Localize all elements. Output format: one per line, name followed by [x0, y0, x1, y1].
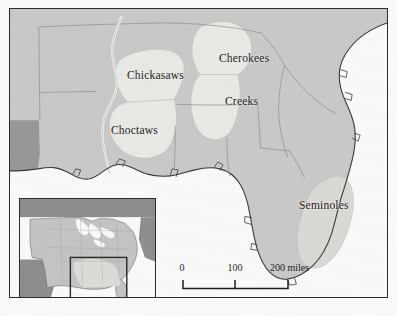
- scale-tick-label-200: 200 miles: [270, 262, 309, 273]
- scale-bar-tick-labels: 0 100 200 miles: [182, 262, 306, 276]
- label-seminoles: Seminoles: [299, 199, 349, 211]
- map-figure: Chickasaws Choctaws Cherokees Creeks Sem…: [0, 0, 397, 316]
- label-creeks: Creeks: [225, 95, 258, 107]
- inset-map-svg: [20, 199, 155, 298]
- label-chickasaws: Chickasaws: [127, 69, 184, 81]
- scale-tick-label-0: 0: [180, 262, 185, 273]
- scale-bar-rule: [182, 279, 302, 293]
- map-frame: Chickasaws Choctaws Cherokees Creeks Sem…: [9, 8, 388, 298]
- inset-canada: [20, 199, 155, 217]
- scale-tick-label-100: 100: [228, 262, 243, 273]
- label-choctaws: Choctaws: [111, 124, 158, 136]
- scale-bar: 0 100 200 miles: [182, 262, 306, 298]
- western-territory: [10, 120, 40, 171]
- label-cherokees: Cherokees: [219, 52, 269, 64]
- inset-locator-map: [19, 198, 156, 298]
